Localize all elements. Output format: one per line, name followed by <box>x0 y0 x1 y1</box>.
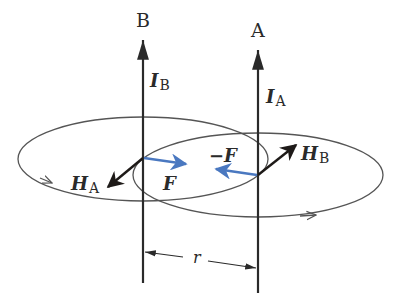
force-neg-f-label: −F <box>209 147 237 165</box>
current-ia-label: IA <box>266 88 286 108</box>
field-ha-label: HA <box>71 175 99 195</box>
field-subscript: A <box>89 180 99 196</box>
wire-a-label: A <box>251 21 265 40</box>
current-ib-label: IB <box>150 72 170 92</box>
field-hb-label: HB <box>301 145 329 165</box>
field-symbol: H <box>71 173 88 194</box>
field-symbol: H <box>301 143 318 164</box>
separation-arrow-right-icon <box>208 261 256 268</box>
force-vector-f-icon <box>144 158 186 164</box>
separation-arrow-left-icon <box>145 252 183 257</box>
current-symbol: I <box>150 70 158 91</box>
diagram-canvas: B A IB IA HA HB F −F r <box>0 0 396 303</box>
separation-r-label: r <box>193 250 201 266</box>
field-vector-ha-icon <box>108 158 143 187</box>
current-symbol: I <box>266 86 274 107</box>
current-subscript: A <box>275 93 285 109</box>
loop-direction-arrow-icon <box>40 178 52 183</box>
field-subscript: B <box>319 150 329 166</box>
wire-b-label: B <box>136 11 150 30</box>
field-vector-hb-icon <box>258 145 296 175</box>
force-vector-neg-f-icon <box>216 169 257 175</box>
force-f-label: F <box>163 175 176 193</box>
current-subscript: B <box>159 77 169 93</box>
loop-direction-arrow-icon <box>300 215 316 216</box>
